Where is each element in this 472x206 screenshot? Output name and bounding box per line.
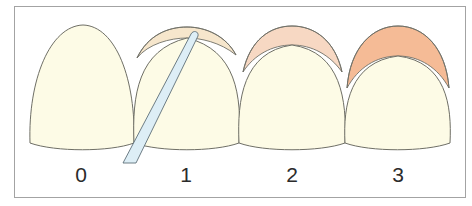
tooth-grade-3 [345, 26, 451, 150]
tooth-crown-2 [239, 45, 346, 150]
tooth-grade-2 [239, 26, 346, 150]
grade-label-3: 3 [383, 163, 413, 187]
tooth-crown-0 [30, 25, 134, 150]
tooth-grade-0 [30, 25, 134, 150]
grade-label-2: 2 [277, 163, 307, 187]
grade-label-0: 0 [66, 163, 96, 187]
grade-label-1: 1 [171, 163, 201, 187]
